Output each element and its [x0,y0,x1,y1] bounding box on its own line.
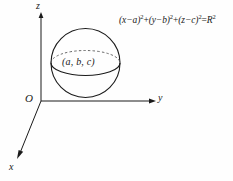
z-axis-arrowhead [39,12,44,18]
sphere-equation: (x−a)2+(y−b)2+(z−c)2=R2 [119,14,216,26]
sphere-center-label: (a, b, c) [62,57,95,67]
x-axis-label: x [9,162,13,172]
equation-term-1: (x−a) [119,15,140,25]
figure-canvas: z y x O (a, b, c) (x−a)2+(y−b)2+(z−c)2=R… [0,0,233,181]
y-axis-label: y [158,93,162,103]
y-axis [41,99,156,104]
equation-term-3: (z−c) [178,15,198,25]
diagram-svg [0,0,233,181]
z-axis [39,12,44,101]
y-axis-arrowhead [149,99,156,104]
x-axis [17,101,41,159]
origin-label: O [25,93,33,104]
equation-term-2: (y−b) [149,15,170,25]
x-axis-arrowhead [17,150,23,159]
z-axis-label: z [36,1,40,11]
equation-rhs-exponent: 2 [213,13,216,20]
